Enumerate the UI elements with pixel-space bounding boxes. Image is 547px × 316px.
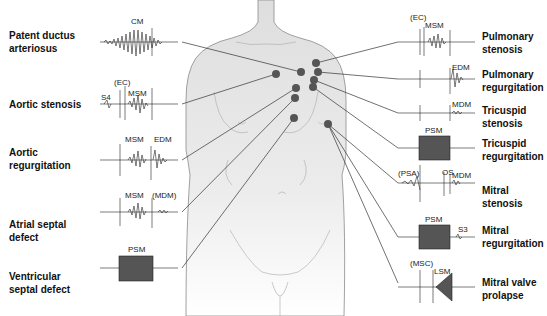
label-line: Atrial septal — [9, 218, 66, 231]
svg-text:(MSC): (MSC) — [410, 259, 433, 268]
label-aortic-regurgitation: Aortic regurgitation — [9, 146, 71, 172]
label-line: regurgitation — [482, 150, 544, 163]
dot-pr — [314, 68, 322, 76]
svg-text:PSM: PSM — [425, 215, 443, 224]
label-line: Pulmonary — [482, 68, 544, 81]
dot-ar — [292, 84, 300, 92]
svg-text:LSM: LSM — [434, 267, 451, 276]
dot-pda — [297, 68, 305, 76]
waveform-tricuspid-stenosis: MDM — [398, 100, 475, 121]
label-line: prolapse — [482, 289, 536, 302]
label-line: Patent ductus — [9, 29, 75, 42]
waveform-pda: CM — [100, 17, 178, 56]
label-line: septal defect — [9, 283, 70, 296]
svg-text:MSM: MSM — [128, 89, 147, 98]
svg-text:EDM: EDM — [154, 135, 172, 144]
dot-aortic — [272, 70, 280, 78]
svg-text:MDM: MDM — [452, 171, 471, 180]
label-line: Tricuspid — [482, 137, 544, 150]
torso-illustration — [186, 0, 346, 316]
dot-ps — [312, 59, 320, 67]
label-patent-ductus-arteriosus: Patent ductus arteriosus — [9, 29, 75, 55]
waveform-mitral-regurgitation: PSM S3 — [398, 215, 475, 249]
svg-text:MSM: MSM — [425, 21, 444, 30]
label-aortic-stenosis: Aortic stenosis — [9, 98, 81, 111]
label-line: Aortic stenosis — [9, 98, 81, 111]
dot-tr — [309, 83, 317, 91]
waveform-atrial-septal-defect: MSM (MDM) — [100, 191, 178, 228]
waveform-aortic-regurgitation: MSM EDM — [100, 135, 178, 180]
dot-asd — [291, 94, 299, 102]
waveform-pulmonary-stenosis: (EC) MSM — [398, 13, 475, 56]
label-line: defect — [9, 231, 66, 244]
svg-text:(EC): (EC) — [114, 78, 131, 87]
label-line: Mitral valve — [482, 276, 536, 289]
svg-text:S4: S4 — [101, 93, 111, 102]
svg-text:MSM: MSM — [125, 191, 144, 200]
waveform-tricuspid-regurgitation: PSM — [398, 126, 475, 160]
svg-text:(PSA): (PSA) — [398, 169, 420, 178]
label-line: Tricuspid — [482, 104, 526, 117]
dot-mitral — [324, 120, 332, 128]
diagram-canvas: CM (EC) MSM S4 MSM EDM — [0, 0, 547, 316]
label-ventricular-septal-defect: Ventricular septal defect — [9, 270, 70, 296]
svg-text:EDM: EDM — [452, 63, 470, 72]
dot-vsd — [290, 114, 298, 122]
label-tricuspid-regurgitation: Tricuspid regurgitation — [482, 137, 544, 163]
svg-text:MSM: MSM — [125, 135, 144, 144]
waveform-mitral-valve-prolapse: (MSC) LSM — [398, 259, 475, 303]
label-line: regurgitation — [9, 159, 71, 172]
svg-text:MDM: MDM — [452, 100, 471, 109]
label-mitral-regurgitation: Mitral regurgitation — [482, 224, 544, 250]
label-line: Ventricular — [9, 270, 70, 283]
label-line: regurgitation — [482, 237, 544, 250]
waveform-mitral-stenosis: (PSA) OS MDM — [398, 165, 475, 202]
label-line: Mitral stenosis — [482, 184, 547, 210]
label-line: stenosis — [482, 117, 526, 130]
waveform-pulmonary-regurgitation: EDM — [398, 63, 475, 94]
label-pulmonary-regurgitation: Pulmonary regurgitation — [482, 68, 544, 94]
svg-text:S3: S3 — [458, 225, 468, 234]
label-line: arteriosus — [9, 42, 75, 55]
svg-text:(MDM): (MDM) — [152, 191, 177, 200]
svg-text:PSM: PSM — [128, 245, 146, 254]
label-mitral-stenosis: Mitral stenosis — [482, 184, 547, 210]
label-tricuspid-stenosis: Tricuspid stenosis — [482, 104, 526, 130]
label-line: Pulmonary — [482, 30, 534, 43]
waveform-aortic-stenosis: (EC) MSM S4 — [100, 78, 178, 120]
waveform-ventricular-septal-defect: PSM — [100, 245, 178, 281]
label-atrial-septal-defect: Atrial septal defect — [9, 218, 66, 244]
svg-text:CM: CM — [131, 17, 144, 26]
label-line: Mitral — [482, 224, 544, 237]
svg-text:PSM: PSM — [425, 126, 443, 135]
label-line: Aortic — [9, 146, 71, 159]
label-mitral-valve-prolapse: Mitral valve prolapse — [482, 276, 536, 302]
label-line: stenosis — [482, 43, 534, 56]
label-line: regurgitation — [482, 81, 544, 94]
label-pulmonary-stenosis: Pulmonary stenosis — [482, 30, 534, 56]
dot-ts — [310, 76, 318, 84]
